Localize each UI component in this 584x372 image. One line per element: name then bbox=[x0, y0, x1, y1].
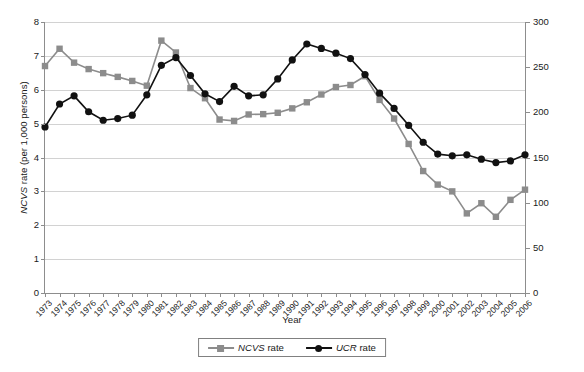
y-tick-mark-right bbox=[526, 203, 530, 204]
data-point bbox=[100, 117, 107, 124]
x-tick-mark bbox=[438, 293, 439, 297]
x-tick-mark bbox=[409, 293, 410, 297]
y-tick-label-right: 100 bbox=[533, 198, 565, 207]
data-point bbox=[187, 85, 193, 91]
data-point bbox=[129, 78, 135, 84]
data-point bbox=[420, 168, 426, 174]
data-point bbox=[115, 74, 121, 80]
y-tick-mark-left bbox=[41, 124, 45, 125]
y-tick-mark-right bbox=[526, 67, 530, 68]
data-point bbox=[478, 200, 484, 206]
x-tick-mark bbox=[176, 293, 177, 297]
data-point bbox=[274, 75, 281, 82]
data-point bbox=[144, 82, 150, 88]
data-point bbox=[507, 157, 514, 164]
x-tick-mark bbox=[525, 293, 526, 297]
x-tick-mark bbox=[205, 293, 206, 297]
data-point bbox=[507, 197, 513, 203]
y-tick-label-right: 150 bbox=[533, 153, 565, 162]
data-point bbox=[56, 46, 62, 52]
data-point bbox=[347, 82, 353, 88]
x-tick-mark bbox=[74, 293, 75, 297]
y-tick-mark-left bbox=[41, 225, 45, 226]
data-point bbox=[216, 116, 222, 122]
chart-legend: NCVS rate UCR rate bbox=[198, 338, 386, 357]
data-point bbox=[114, 115, 121, 122]
x-tick-mark bbox=[103, 293, 104, 297]
x-axis-line bbox=[44, 293, 526, 294]
data-point bbox=[332, 50, 339, 57]
data-point bbox=[42, 63, 48, 69]
data-point bbox=[318, 45, 325, 52]
data-point bbox=[492, 159, 499, 166]
data-point bbox=[390, 105, 397, 112]
x-tick-mark bbox=[263, 293, 264, 297]
data-point bbox=[245, 111, 251, 117]
data-point bbox=[260, 111, 266, 117]
y-tick-label-left: 0 bbox=[9, 288, 39, 297]
x-tick-mark bbox=[190, 293, 191, 297]
x-tick-mark bbox=[394, 293, 395, 297]
x-tick-mark bbox=[365, 293, 366, 297]
y-tick-mark-left bbox=[41, 22, 45, 23]
data-point bbox=[143, 91, 150, 98]
y-tick-label-right: 300 bbox=[533, 17, 565, 26]
x-tick-mark bbox=[147, 293, 148, 297]
data-point bbox=[478, 156, 485, 163]
data-point bbox=[245, 92, 252, 99]
data-point bbox=[231, 118, 237, 124]
x-tick-mark bbox=[496, 293, 497, 297]
y-tick-mark-right bbox=[526, 112, 530, 113]
legend-item-ucr[interactable]: UCR rate bbox=[306, 342, 376, 353]
x-axis-title: Year bbox=[0, 314, 584, 325]
data-point bbox=[85, 66, 91, 72]
y-tick-mark-left bbox=[41, 56, 45, 57]
y-tick-mark-left bbox=[41, 191, 45, 192]
data-point bbox=[391, 115, 397, 121]
data-point bbox=[56, 100, 63, 107]
x-tick-mark bbox=[452, 293, 453, 297]
data-point bbox=[216, 98, 223, 105]
x-tick-mark bbox=[292, 293, 293, 297]
x-tick-mark bbox=[510, 293, 511, 297]
x-tick-mark bbox=[249, 293, 250, 297]
x-tick-mark bbox=[481, 293, 482, 297]
y-tick-mark-left bbox=[41, 90, 45, 91]
legend-item-ncvs[interactable]: NCVS rate bbox=[208, 342, 284, 353]
data-point bbox=[493, 214, 499, 220]
data-point bbox=[187, 72, 194, 79]
series-lines bbox=[45, 22, 525, 293]
data-point bbox=[376, 97, 382, 103]
data-point bbox=[275, 110, 281, 116]
y-tick-mark-left bbox=[41, 259, 45, 260]
legend-swatch-ucr-icon bbox=[306, 343, 332, 352]
x-tick-mark bbox=[132, 293, 133, 297]
data-point bbox=[347, 55, 354, 62]
y-tick-mark-right bbox=[526, 248, 530, 249]
data-point bbox=[318, 91, 324, 97]
chart-figure: 012345678 050100150200250300 19731974197… bbox=[0, 0, 584, 372]
data-point bbox=[129, 112, 136, 119]
data-point bbox=[435, 181, 441, 187]
data-point bbox=[420, 139, 427, 146]
legend-label-ucr: UCR rate bbox=[336, 342, 376, 353]
x-tick-mark bbox=[423, 293, 424, 297]
legend-swatch-ncvs-icon bbox=[208, 343, 234, 352]
data-point bbox=[303, 40, 310, 47]
y-tick-label-left: 1 bbox=[9, 254, 39, 263]
data-point bbox=[71, 59, 77, 65]
data-point bbox=[201, 90, 208, 97]
data-point bbox=[522, 186, 528, 192]
data-point bbox=[376, 90, 383, 97]
data-point bbox=[158, 37, 164, 43]
data-point bbox=[405, 141, 411, 147]
x-tick-mark bbox=[350, 293, 351, 297]
series-line-ucr bbox=[45, 44, 525, 163]
x-tick-mark bbox=[467, 293, 468, 297]
data-point bbox=[289, 56, 296, 63]
x-tick-mark bbox=[336, 293, 337, 297]
x-tick-mark bbox=[321, 293, 322, 297]
data-point bbox=[172, 54, 179, 61]
data-point bbox=[230, 83, 237, 90]
data-point bbox=[70, 92, 77, 99]
